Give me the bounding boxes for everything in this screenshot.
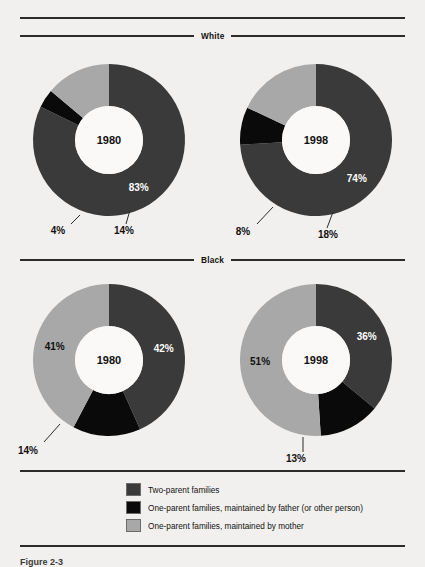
legend: Two-parent families One-parent families,… [126, 483, 370, 532]
donut-svg: 36%13%51%1998 [221, 272, 411, 457]
donut-center-year: 1980 [97, 354, 121, 366]
legend-label-father: One-parent families, maintained by fathe… [148, 503, 363, 513]
top-rule [20, 17, 405, 19]
section-rule-left [20, 35, 194, 37]
legend-top-rule [20, 470, 405, 472]
section-rule-right [231, 35, 405, 37]
segment-label: 41% [45, 341, 65, 352]
section-header-white: White [20, 29, 405, 43]
legend-label-mother: One-parent families, maintained by mothe… [148, 521, 304, 531]
donut-chart-white-1998: 74%8%18%1998 [221, 52, 411, 237]
donut-center-year: 1998 [304, 134, 328, 146]
legend-item-father: One-parent families, maintained by fathe… [126, 501, 370, 514]
segment-label: 36% [357, 331, 377, 342]
donut-chart-black-1980: 42%14%41%1980 [14, 272, 204, 457]
donut-center-year: 1980 [97, 134, 121, 146]
section-title-white: White [201, 31, 224, 41]
legend-bottom-rule [20, 545, 405, 547]
segment-label: 13% [286, 453, 306, 464]
section-rule-right [231, 259, 405, 261]
donut-chart-white-1980: 83%4%14%1980 [14, 52, 204, 237]
figure-caption: Figure 2-3 [20, 557, 220, 567]
legend-swatch-father [126, 501, 141, 514]
segment-label: 18% [318, 229, 338, 240]
label-leader-line [257, 207, 273, 224]
label-leader-line [44, 424, 60, 442]
section-title-black: Black [201, 255, 224, 265]
segment-label: 14% [18, 445, 38, 456]
segment-label: 4% [51, 225, 66, 236]
section-header-black: Black [20, 253, 405, 267]
donut-center-year: 1998 [304, 354, 328, 366]
donut-svg: 83%4%14%1980 [14, 52, 204, 237]
legend-swatch-two-parent [126, 483, 141, 496]
label-leader-line [71, 215, 80, 224]
legend-item-two-parent: Two-parent families [126, 483, 370, 496]
segment-label: 83% [129, 182, 149, 193]
donut-svg: 74%8%18%1998 [221, 52, 411, 237]
donut-chart-black-1998: 36%13%51%1998 [221, 272, 411, 457]
section-rule-left [20, 259, 194, 261]
segment-label: 51% [250, 356, 270, 367]
legend-item-mother: One-parent families, maintained by mothe… [126, 519, 370, 532]
segment-label: 42% [154, 343, 174, 354]
segment-label: 74% [347, 173, 367, 184]
legend-label-two-parent: Two-parent families [148, 485, 219, 495]
donut-svg: 42%14%41%1980 [14, 272, 204, 457]
segment-label: 8% [236, 226, 251, 237]
segment-label: 14% [114, 225, 134, 236]
legend-swatch-mother [126, 519, 141, 532]
